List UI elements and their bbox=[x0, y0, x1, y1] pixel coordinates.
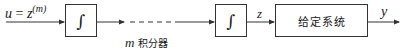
input-eq: = bbox=[12, 6, 27, 21]
given-system-block: 给定系统 bbox=[275, 4, 368, 37]
intermediate-label: z bbox=[257, 7, 262, 20]
integrator-block-m: ∫ bbox=[215, 4, 247, 37]
integral-icon: ∫ bbox=[77, 11, 86, 31]
chain-count: m bbox=[125, 35, 134, 50]
chain-text: 积分器 bbox=[134, 38, 167, 49]
chain-label: m 积分器 bbox=[125, 36, 168, 49]
integral-icon: ∫ bbox=[227, 11, 236, 31]
input-label: u = z(m) bbox=[5, 4, 46, 21]
integrator-block-1: ∫ bbox=[65, 4, 97, 37]
given-system-label: 给定系统 bbox=[298, 13, 346, 29]
input-var: u bbox=[5, 6, 12, 21]
input-sup: (m) bbox=[32, 3, 46, 14]
output-label: y bbox=[381, 5, 387, 19]
